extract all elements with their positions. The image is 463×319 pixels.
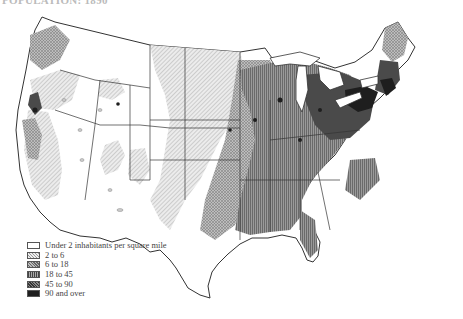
legend-item-18-to-45: 18 to 45 [27,270,167,280]
legend-swatch-vertical [27,271,40,278]
legend-label: Under 2 inhabitants per square mile [45,241,167,250]
legend-swatch-cross [27,261,40,268]
legend-swatch-diagonal [27,252,40,259]
legend-label: 90 and over [45,289,85,298]
map-legend: Under 2 inhabitants per square mile 2 to… [27,241,167,299]
legend-swatch-blank [27,242,40,249]
legend-swatch-dense [27,281,40,288]
legend-swatch-solid [27,290,40,297]
legend-item-90-over: 90 and over [27,289,167,299]
legend-label: 18 to 45 [45,270,73,279]
